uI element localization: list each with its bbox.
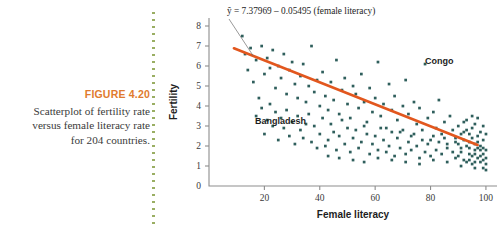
data-point <box>382 139 385 142</box>
y-tick-label: 7 <box>196 41 201 51</box>
data-point <box>377 157 380 160</box>
data-point <box>479 145 482 148</box>
figure-number: FIGURE 4.20 <box>8 88 150 102</box>
data-point <box>465 129 468 132</box>
data-point <box>327 139 330 142</box>
data-point <box>482 125 485 128</box>
data-point <box>271 49 274 52</box>
data-point <box>363 125 366 128</box>
data-point <box>432 111 435 114</box>
data-point <box>338 113 341 116</box>
data-point <box>307 85 310 88</box>
data-point <box>307 113 310 116</box>
data-point <box>465 119 468 122</box>
data-point <box>338 135 341 138</box>
data-point <box>388 145 391 148</box>
data-point <box>476 141 479 144</box>
data-point <box>316 147 319 150</box>
annotation-bangladesh: Bangladesh <box>255 116 306 126</box>
data-point <box>360 141 363 144</box>
data-point <box>379 115 382 118</box>
data-point <box>418 157 421 160</box>
data-point <box>446 161 449 164</box>
data-point <box>324 145 327 148</box>
data-point <box>474 123 477 126</box>
figure-caption-line-3: for 204 countries. <box>8 133 150 148</box>
data-point <box>341 119 344 122</box>
data-point <box>476 135 479 138</box>
data-point <box>385 151 388 154</box>
data-point <box>468 153 471 156</box>
data-point <box>460 147 463 150</box>
data-point <box>457 155 460 158</box>
data-point <box>474 149 477 152</box>
data-point <box>330 123 333 126</box>
data-point <box>468 159 471 162</box>
data-point <box>479 131 482 134</box>
data-point <box>377 61 380 64</box>
data-point <box>462 159 465 162</box>
data-point <box>482 147 485 150</box>
data-point <box>482 167 485 170</box>
data-point <box>269 67 272 70</box>
data-point <box>255 59 258 62</box>
data-point <box>343 143 346 146</box>
data-point <box>454 157 457 160</box>
data-point <box>413 101 416 104</box>
data-point <box>321 71 324 74</box>
data-point <box>460 151 463 154</box>
data-point <box>310 141 313 144</box>
data-point <box>302 137 305 140</box>
data-point <box>371 143 374 146</box>
scatterplot: 012345678 20406080100 ŷ = 7.37969 – 0.05… <box>165 0 503 237</box>
data-point <box>296 97 299 100</box>
data-point <box>382 103 385 106</box>
data-point <box>402 105 405 108</box>
data-point <box>396 119 399 122</box>
data-point <box>418 107 421 110</box>
figure-caption: FIGURE 4.20 Scatterplot of fertility rat… <box>8 88 150 147</box>
data-point <box>335 149 338 152</box>
data-point <box>407 141 410 144</box>
data-point <box>321 117 324 120</box>
data-point <box>332 99 335 102</box>
y-tick-label: 0 <box>196 181 201 191</box>
data-point <box>429 139 432 142</box>
data-point <box>468 133 471 136</box>
x-tick-label: 80 <box>426 193 436 203</box>
data-point <box>393 155 396 158</box>
data-point <box>352 159 355 162</box>
data-point <box>421 129 424 132</box>
data-point <box>457 125 460 128</box>
data-point <box>462 131 465 134</box>
data-point <box>346 127 349 130</box>
data-point <box>294 83 297 86</box>
data-point <box>424 151 427 154</box>
data-point <box>330 81 333 84</box>
data-point <box>374 97 377 100</box>
data-point <box>354 129 357 132</box>
data-point <box>274 111 277 114</box>
data-point <box>282 53 285 56</box>
data-point <box>368 153 371 156</box>
data-point <box>479 155 482 158</box>
data-point <box>305 101 308 104</box>
x-tick-label: 60 <box>370 193 380 203</box>
data-point <box>241 35 244 38</box>
y-tick-label: 4 <box>196 101 201 111</box>
y-tick-label: 8 <box>196 21 201 31</box>
data-point <box>327 109 330 112</box>
data-point <box>410 135 413 138</box>
data-point <box>485 163 488 166</box>
y-tick-label: 1 <box>196 161 201 171</box>
data-point <box>291 61 294 64</box>
data-point <box>349 117 352 120</box>
x-tick-label: 100 <box>479 193 494 203</box>
figure-caption-line-1: Scatterplot of fertility rate <box>8 104 150 119</box>
data-point <box>385 127 388 130</box>
dotted-divider <box>152 12 155 226</box>
data-point <box>415 145 418 148</box>
data-point <box>313 91 316 94</box>
data-point <box>418 163 421 166</box>
data-point <box>413 133 416 136</box>
